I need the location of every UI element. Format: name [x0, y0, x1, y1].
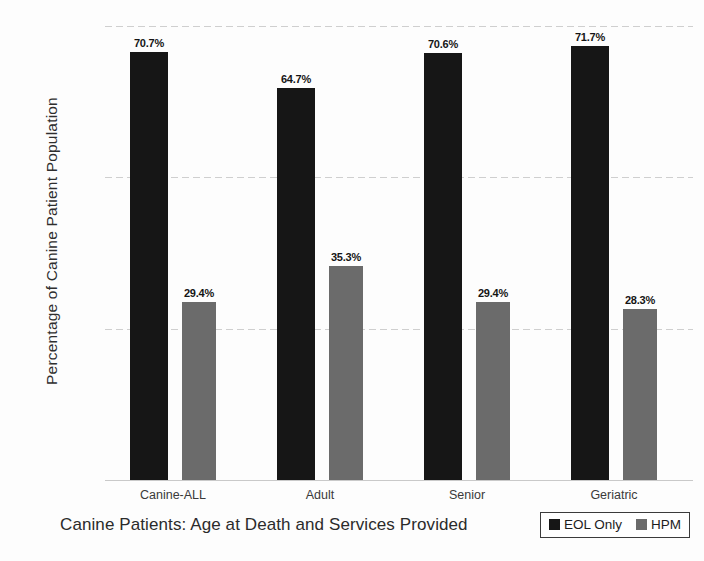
- bar-value-label: 71.7%: [575, 31, 605, 43]
- bar-chart: Percentage of Canine Patient Population …: [0, 0, 704, 561]
- legend-label-eol-only: EOL Only: [564, 517, 622, 532]
- bar-hpm: 29.4%: [182, 302, 216, 480]
- bar-value-label: 70.7%: [134, 37, 164, 49]
- bar-value-label: 35.3%: [331, 251, 361, 263]
- bar-eol-only: 70.7%: [130, 52, 168, 480]
- bar-eol-only: 71.7%: [571, 46, 609, 480]
- bar-hpm: 28.3%: [623, 309, 657, 480]
- x-axis-title: Canine Patients: Age at Death and Servic…: [60, 515, 468, 535]
- legend-item-eol-only: EOL Only: [549, 517, 622, 532]
- bar-value-label: 29.4%: [184, 287, 214, 299]
- bar-hpm: 35.3%: [329, 266, 363, 480]
- x-tick-label: Senior: [449, 488, 485, 502]
- bar-group: 70.6%29.4%: [424, 26, 510, 480]
- bar-group: 71.7%28.3%: [571, 26, 657, 480]
- plot-area: 70.7%29.4%64.7%35.3%70.6%29.4%71.7%28.3%: [105, 26, 693, 480]
- bar-group: 64.7%35.3%: [277, 26, 363, 480]
- x-tick-label: Geriatric: [590, 488, 637, 502]
- gridline-0: [105, 480, 693, 481]
- legend-swatch-icon-hpm: [636, 519, 647, 530]
- bar-value-label: 70.6%: [428, 38, 458, 50]
- bar-group: 70.7%29.4%: [130, 26, 216, 480]
- x-tick-label: Adult: [306, 488, 335, 502]
- legend-item-hpm: HPM: [636, 517, 681, 532]
- legend-swatch-icon-eol-only: [549, 519, 560, 530]
- bar-eol-only: 70.6%: [424, 53, 462, 480]
- bar-value-label: 29.4%: [478, 287, 508, 299]
- chart-legend: EOL Only HPM: [540, 512, 690, 538]
- legend-label-hpm: HPM: [651, 517, 681, 532]
- bar-eol-only: 64.7%: [277, 88, 315, 480]
- bar-hpm: 29.4%: [476, 302, 510, 480]
- bar-value-label: 28.3%: [625, 294, 655, 306]
- x-tick-label: Canine-ALL: [140, 488, 206, 502]
- bar-value-label: 64.7%: [281, 73, 311, 85]
- y-axis-title: Percentage of Canine Patient Population: [43, 31, 61, 451]
